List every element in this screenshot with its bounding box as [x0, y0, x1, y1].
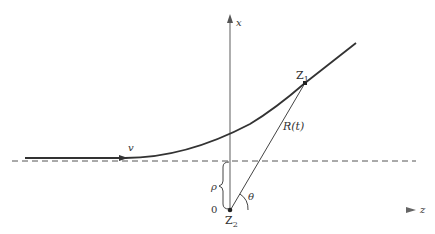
separation-line: [231, 83, 305, 209]
origin-label: 0: [211, 204, 217, 215]
angle-label: θ: [248, 191, 254, 202]
impact-parameter-brace: [219, 162, 229, 209]
impact-parameter-label: ρ: [210, 181, 217, 192]
angle-arc: [240, 194, 248, 210]
x-axis-label: x: [236, 17, 242, 28]
particle2-point: [228, 208, 233, 213]
z-axis-arrow-icon: [406, 207, 416, 213]
x-axis: [227, 14, 233, 212]
velocity-label: v: [128, 142, 134, 153]
z-axis-label: z: [419, 204, 426, 215]
trajectory-curve: [25, 43, 356, 158]
particle2-label: Z2: [225, 214, 238, 229]
scattering-diagram: x z v R(t) Z1 Z2 θ ρ 0: [0, 0, 435, 234]
z-axis: [230, 207, 416, 213]
particle1-label: Z1: [296, 69, 309, 84]
x-axis-arrow-icon: [227, 14, 233, 23]
separation-label: R(t): [282, 120, 304, 133]
velocity-arrow-icon: [119, 155, 128, 161]
